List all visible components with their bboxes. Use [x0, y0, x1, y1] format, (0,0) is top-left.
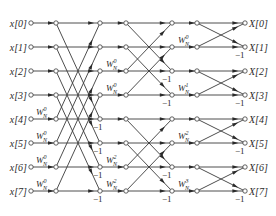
twiddle-label: W3N	[178, 178, 190, 191]
arrowhead-icon	[48, 69, 54, 73]
stage1-output-node	[98, 141, 102, 145]
stage3-input-node	[195, 21, 199, 25]
stage2-output-node	[170, 93, 174, 97]
output-label: X[4]	[248, 114, 268, 125]
arrowhead-icon	[118, 117, 124, 121]
arrowhead-icon	[48, 93, 54, 97]
arrowhead-icon	[160, 93, 166, 97]
arrowhead-icon	[189, 141, 195, 145]
stage2-input-node	[124, 165, 128, 169]
arrowhead-icon	[232, 135, 238, 139]
arrowhead-icon	[48, 45, 54, 49]
input-node	[29, 117, 33, 121]
arrowhead-icon	[160, 165, 166, 169]
input-node	[29, 165, 33, 169]
stage1-input-node	[54, 117, 58, 121]
arrowhead-icon	[88, 21, 94, 25]
stage3-input-node	[195, 93, 199, 97]
output-label: X[2]	[248, 66, 268, 77]
negation-label: −1	[93, 194, 103, 204]
stage1-input-node	[54, 93, 58, 97]
twiddle-label: W0N	[36, 130, 48, 143]
stage3-input-node	[195, 141, 199, 145]
output-node	[243, 93, 247, 97]
arrowhead-icon	[232, 93, 238, 97]
arrowhead-icon	[160, 69, 166, 73]
arrowhead-icon	[232, 69, 238, 73]
stage2-output-node	[170, 189, 174, 193]
stage1-output-node	[98, 21, 102, 25]
arrowhead-icon	[160, 21, 166, 25]
arrowhead-icon	[232, 165, 238, 169]
arrowhead-icon	[48, 165, 54, 169]
twiddle-label: W2N	[106, 154, 118, 167]
arrowhead-icon	[232, 87, 238, 91]
output-node	[243, 189, 247, 193]
negation-label: −1	[235, 194, 245, 204]
stage1-input-node	[54, 141, 58, 145]
negation-label: −1	[162, 170, 172, 180]
arrowhead-icon	[118, 45, 124, 49]
twiddle-label: W0N	[36, 154, 48, 167]
arrowhead-icon	[160, 189, 166, 193]
arrowhead-icon	[118, 93, 124, 97]
output-node	[243, 45, 247, 49]
arrowhead-icon	[189, 45, 195, 49]
arrowhead-icon	[88, 63, 92, 69]
stage2-input-node	[124, 93, 128, 97]
input-node	[29, 45, 33, 49]
stage1-output-node	[98, 93, 102, 97]
stage1-output-node	[98, 189, 102, 193]
arrowhead-icon	[88, 69, 94, 73]
arrowhead-icon	[88, 168, 92, 174]
input-node	[29, 189, 33, 193]
output-node	[243, 117, 247, 121]
stage2-input-node	[124, 141, 128, 145]
arrowhead-icon	[48, 21, 54, 25]
stage2-input-node	[124, 117, 128, 121]
input-node	[29, 69, 33, 73]
arrowhead-icon	[189, 69, 195, 73]
output-label: X[1]	[248, 42, 268, 53]
stage3-input-node	[195, 165, 199, 169]
output-node	[243, 21, 247, 25]
labels: x[0]x[1]x[2]x[3]x[4]x[5]x[6]x[7]X[0]X[1]…	[9, 18, 268, 205]
stage1-input-node	[54, 69, 58, 73]
stage2-input-node	[124, 21, 128, 25]
twiddle-label: W2N	[106, 178, 118, 191]
stage3-input-node	[195, 117, 199, 121]
input-label: x[3]	[9, 90, 27, 101]
stage1-output-node	[98, 45, 102, 49]
twiddle-label: W0N	[106, 82, 118, 95]
negation-label: −1	[162, 98, 172, 108]
arrowhead-icon	[118, 69, 124, 73]
arrowhead-icon	[232, 45, 238, 49]
input-label: x[4]	[9, 114, 27, 125]
arrowhead-icon	[189, 165, 195, 169]
arrowhead-icon	[232, 39, 238, 43]
arrowhead-icon	[48, 117, 54, 121]
arrowhead-icon	[232, 21, 238, 25]
output-label: X[7]	[248, 186, 268, 197]
arrowhead-icon	[88, 120, 92, 126]
arrowhead-icon	[232, 26, 238, 30]
arrowhead-icon	[88, 96, 92, 102]
twiddle-label: W1N	[178, 82, 190, 95]
stage2-input-node	[124, 189, 128, 193]
negation-label: −1	[235, 98, 245, 108]
stage1-input-node	[54, 45, 58, 49]
twiddle-label: W0N	[36, 178, 48, 191]
negation-label: −1	[93, 170, 103, 180]
arrowhead-icon	[88, 144, 92, 150]
stage3-input-node	[195, 69, 199, 73]
arrowhead-icon	[232, 183, 238, 187]
stage2-output-node	[170, 21, 174, 25]
input-node	[29, 141, 33, 145]
arrowhead-icon	[189, 93, 195, 97]
output-node	[243, 69, 247, 73]
negation-label: −1	[235, 146, 245, 156]
arrowhead-icon	[232, 74, 238, 78]
stage2-input-node	[124, 69, 128, 73]
arrowhead-icon	[88, 39, 92, 45]
arrowhead-icon	[232, 189, 238, 193]
